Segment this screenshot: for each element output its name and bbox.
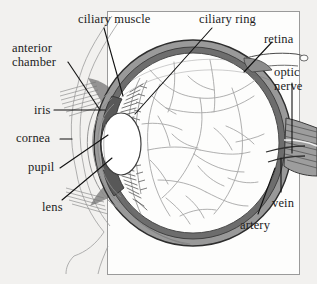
- label-iris: iris: [34, 104, 51, 117]
- lens: [101, 113, 141, 175]
- label-pupil: pupil: [28, 161, 54, 174]
- label-vein: vein: [272, 197, 294, 210]
- label-optic-nerve-line1: optic: [274, 65, 300, 79]
- stalk-tip: [300, 55, 308, 61]
- label-optic-nerve: opticnerve: [274, 66, 317, 93]
- eye-anatomy-diagram: ciliary muscle ciliary ring retina anter…: [0, 0, 317, 284]
- label-anterior-chamber-line2: chamber: [12, 55, 56, 69]
- label-anterior-chamber-line1: anterior: [12, 41, 52, 55]
- label-optic-nerve-line2: nerve: [274, 79, 303, 93]
- label-artery: artery: [240, 219, 270, 232]
- label-ciliary-ring: ciliary ring: [199, 13, 256, 26]
- label-ciliary-muscle: ciliary muscle: [78, 13, 151, 26]
- label-cornea: cornea: [16, 132, 50, 145]
- label-lens: lens: [42, 201, 63, 214]
- label-anterior-chamber: anteriorchamber: [12, 42, 78, 69]
- label-retina: retina: [264, 33, 293, 46]
